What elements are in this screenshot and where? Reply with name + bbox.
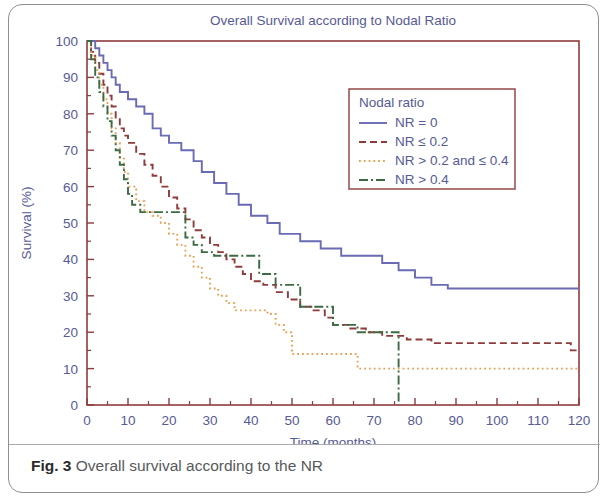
y-tick-label: 50 [63,216,78,231]
x-tick-label: 30 [202,413,217,428]
figure-caption: Fig. 3 Overall survival according to the… [31,457,323,475]
figure-caption-body: Overall survival according to the NR [76,457,323,474]
chart-region: Overall Survival according to Nodal Rati… [9,5,600,445]
y-tick-label: 90 [63,70,78,85]
legend-label-0: NR = 0 [395,115,437,130]
x-tick-label: 110 [527,413,549,428]
legend-label-2: NR > 0.2 and ≤ 0.4 [395,153,509,168]
y-tick-label: 10 [63,362,78,377]
y-tick-label: 70 [63,143,78,158]
survival-chart: Overall Survival according to Nodal Rati… [9,5,600,445]
y-tick-label: 80 [63,107,78,122]
y-axis-title: Survival (%) [19,187,34,260]
legend-label-1: NR ≤ 0.2 [395,134,448,149]
x-tick-label: 60 [325,413,340,428]
survival-curve-1 [87,41,579,350]
x-tick-label: 40 [243,413,258,428]
x-tick-label: 80 [407,413,422,428]
y-tick-label: 40 [63,252,78,267]
y-tick-label: 30 [63,289,78,304]
x-tick-label: 100 [486,413,509,428]
chart-title: Overall Survival according to Nodal Rati… [210,13,456,28]
y-tick-label: 20 [63,325,78,340]
figure-caption-bar: Fig. 3 Overall survival according to the… [9,444,600,492]
x-tick-label: 20 [161,413,176,428]
x-tick-label: 0 [83,413,91,428]
x-tick-label: 10 [120,413,135,428]
y-tick-label: 60 [63,180,78,195]
x-tick-label: 120 [568,413,591,428]
figure-number: Fig. 3 [31,457,71,474]
legend-label-3: NR > 0.4 [395,172,449,187]
figure-card: Overall Survival according to Nodal Rati… [8,4,599,493]
y-tick-label: 0 [70,398,78,413]
y-tick-label: 100 [55,34,78,49]
legend-title: Nodal ratio [359,95,424,110]
x-tick-label: 70 [366,413,381,428]
x-tick-label: 90 [448,413,463,428]
x-tick-label: 50 [284,413,299,428]
